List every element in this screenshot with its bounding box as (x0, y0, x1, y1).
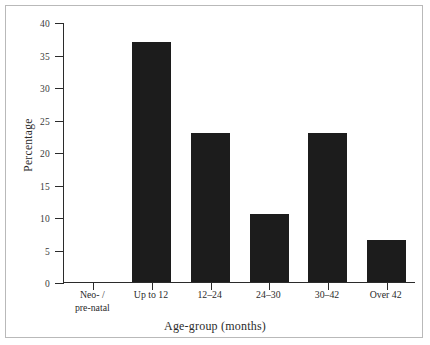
plot-area: 0510152025303540 (63, 23, 415, 283)
y-axis-tick-label: 15 (40, 182, 50, 192)
y-axis-tick-label: 5 (45, 247, 50, 257)
x-axis-category-label: Neo- / pre-natal (63, 289, 122, 314)
y-axis-tick-label: 30 (40, 84, 50, 94)
y-axis-tick: 15 (55, 186, 64, 187)
x-axis-title-label: Age-group (months) (164, 319, 266, 333)
y-axis-tick: 5 (55, 251, 64, 252)
y-axis-tick-label: 25 (40, 117, 50, 127)
y-axis-tick: 40 (55, 23, 64, 24)
bar (250, 214, 289, 282)
y-axis-tick: 30 (55, 88, 64, 89)
bar (191, 133, 230, 283)
y-axis-tick: 35 (55, 56, 64, 57)
y-axis-tick: 25 (55, 121, 64, 122)
y-axis-title: Percentage (20, 6, 36, 283)
y-axis-tick: 10 (55, 218, 64, 219)
y-axis-tick-label: 0 (45, 279, 50, 289)
y-axis-tick-label: 35 (40, 52, 50, 62)
y-axis-tick-label: 20 (40, 149, 50, 159)
x-axis-category-label: 30–42 (298, 289, 357, 302)
y-axis-title-label: Percentage (22, 118, 34, 171)
y-axis-tick-label: 40 (40, 19, 50, 29)
bar (132, 42, 171, 283)
y-axis-tick: 20 (55, 153, 64, 154)
x-axis-category-label: Over 42 (356, 289, 415, 302)
x-axis-title: Age-group (months) (6, 319, 424, 334)
y-axis-tick-label: 10 (40, 214, 50, 224)
bar (308, 133, 347, 283)
x-axis-category-label: 12–24 (180, 289, 239, 302)
x-axis-category-label: Up to 12 (122, 289, 181, 302)
y-axis-tick: 0 (55, 283, 64, 284)
x-axis-category-label: 24–30 (239, 289, 298, 302)
figure-frame: Percentage 0510152025303540 Age-group (m… (5, 5, 423, 338)
bar (367, 240, 406, 282)
